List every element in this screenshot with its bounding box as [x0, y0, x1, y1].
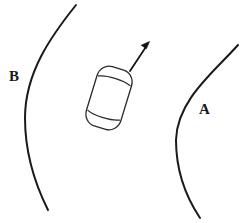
car-body: [83, 63, 136, 133]
figure-canvas: B A: [0, 0, 244, 223]
inner-curve-a-path: [176, 45, 238, 218]
velocity-arrow-head: [141, 42, 149, 49]
curve-label-a: A: [199, 102, 210, 117]
curve-label-b: B: [9, 69, 19, 84]
velocity-arrow: [130, 42, 150, 72]
outer-curve-b-path: [25, 5, 76, 210]
velocity-arrow-shaft: [130, 47, 146, 72]
car: [83, 63, 136, 133]
